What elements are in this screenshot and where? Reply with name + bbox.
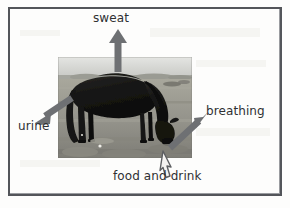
label-breathing: breathing [206,104,265,118]
horse-photo-image [58,57,192,158]
label-food-and-drink: food and drink [113,169,202,183]
horse-photo [58,57,192,158]
figure-page: sweat urine breathing food and drink [0,0,290,208]
label-urine: urine [18,119,49,133]
label-sweat: sweat [93,11,129,25]
